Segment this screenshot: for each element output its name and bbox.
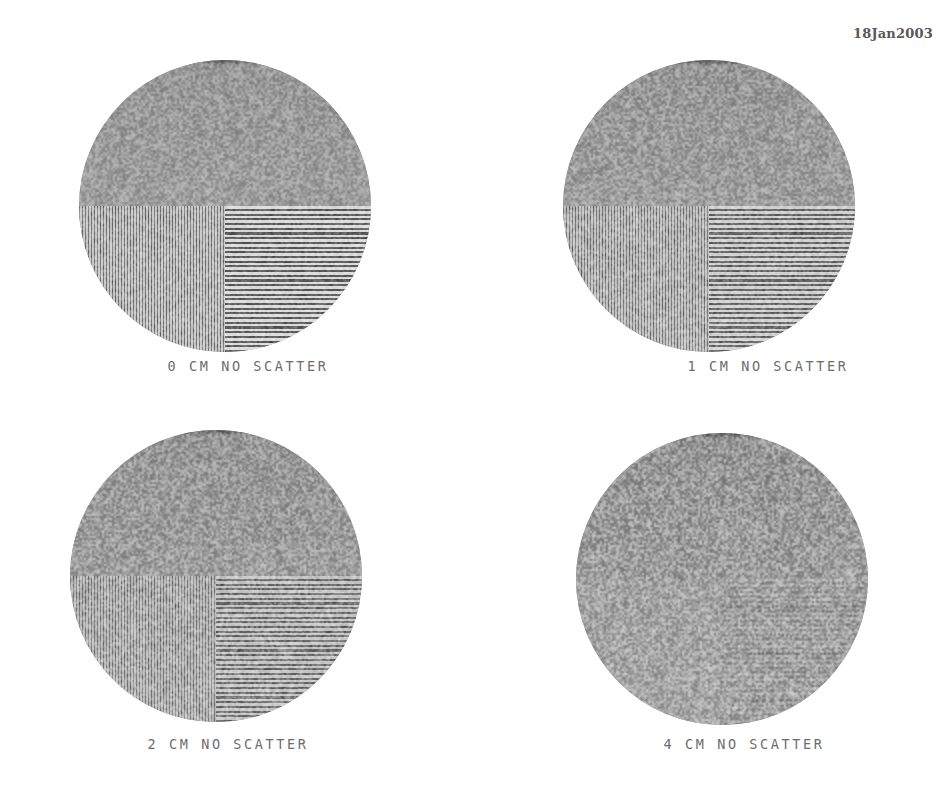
phantom-panel-4cm: 4 CM NO SCATTER bbox=[498, 430, 918, 780]
quadrant-bottom-left bbox=[70, 576, 216, 722]
phantom-panel-2cm: 2 CM NO SCATTER bbox=[12, 430, 432, 780]
panel-caption: 0 CM NO SCATTER bbox=[12, 358, 458, 374]
quadrant-bottom-right bbox=[722, 579, 868, 725]
quadrant-bottom-left bbox=[79, 206, 225, 352]
phantom-disc bbox=[576, 433, 868, 725]
quadrant-top-right bbox=[722, 433, 868, 579]
quadrant-top-right bbox=[225, 60, 371, 206]
panel-caption: 4 CM NO SCATTER bbox=[498, 736, 945, 752]
phantom-disc bbox=[563, 60, 855, 352]
crosshair-horizontal-bar bbox=[79, 60, 371, 64]
quadrant-top-right bbox=[709, 60, 855, 206]
quadrant-bottom-left bbox=[563, 206, 709, 352]
horizontal-line-pairs bbox=[722, 579, 868, 725]
crosshair-horizontal-bar bbox=[563, 60, 855, 64]
vertical-line-pairs bbox=[79, 206, 225, 352]
phantom-disc bbox=[79, 60, 371, 352]
quadrant-top-left bbox=[563, 60, 709, 206]
vertical-line-pairs bbox=[576, 579, 722, 725]
vertical-line-pairs bbox=[70, 576, 216, 722]
crosshair-horizontal-bar bbox=[70, 430, 362, 434]
horizontal-line-pairs bbox=[225, 206, 371, 352]
phantom-image bbox=[576, 433, 868, 725]
quadrant-bottom-right bbox=[709, 206, 855, 352]
panel-caption: 2 CM NO SCATTER bbox=[12, 736, 438, 752]
quadrant-top-left bbox=[79, 60, 225, 206]
quadrant-bottom-right bbox=[225, 206, 371, 352]
phantom-image-grid: 0 CM NO SCATTER 1 CM NO SCATTER bbox=[0, 52, 945, 792]
quadrant-top-left bbox=[576, 433, 722, 579]
quadrant-top-right bbox=[216, 430, 362, 576]
quadrant-bottom-right bbox=[216, 576, 362, 722]
phantom-disc bbox=[70, 430, 362, 722]
phantom-panel-1cm: 1 CM NO SCATTER bbox=[498, 52, 918, 402]
phantom-image bbox=[70, 430, 362, 722]
horizontal-line-pairs bbox=[216, 576, 362, 722]
quadrant-bottom-left bbox=[576, 579, 722, 725]
phantom-image bbox=[79, 60, 371, 352]
phantom-image bbox=[563, 60, 855, 352]
phantom-panel-0cm: 0 CM NO SCATTER bbox=[12, 52, 432, 402]
quadrant-top-left bbox=[70, 430, 216, 576]
vertical-line-pairs bbox=[563, 206, 709, 352]
horizontal-line-pairs bbox=[709, 206, 855, 352]
date-stamp: 18Jan2003 bbox=[853, 26, 933, 41]
panel-caption: 1 CM NO SCATTER bbox=[498, 358, 945, 374]
crosshair-horizontal-bar bbox=[576, 433, 868, 437]
